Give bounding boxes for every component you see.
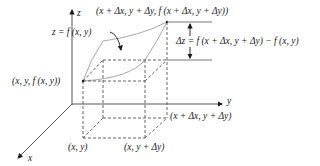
surface-point-marker (82, 80, 84, 82)
top-point-label: (x + Δx, y + Δy, f (x + Δx, y + Δy)) (96, 7, 228, 17)
z-axis-label: z (77, 9, 81, 19)
surface-edge-back (103, 22, 167, 41)
base-point-xdx-ydy-label: (x + Δx, y + Δy) (170, 112, 231, 122)
x-axis (18, 104, 72, 158)
surface-function-label: z = f (x, y) (52, 28, 91, 38)
base-rectangle (83, 118, 167, 138)
delta-z-formula-label: Δz = f (x + Δx, y + Δy) − f (x, y) (176, 37, 299, 47)
surface-pointer-arrow (110, 32, 121, 50)
top-rectangle (83, 60, 167, 81)
y-axis-label: y (227, 97, 231, 107)
surface-edge-left (83, 41, 103, 81)
x-axis-label: x (28, 154, 32, 164)
surface-point-label: (x, y, f (x, y)) (12, 77, 60, 87)
surface-edge-right (145, 22, 167, 60)
surface-edge-front (83, 60, 145, 81)
base-point-xy-label: (x, y) (68, 143, 88, 153)
base-point-x-ydy-label: (x, y + Δy) (124, 143, 164, 153)
